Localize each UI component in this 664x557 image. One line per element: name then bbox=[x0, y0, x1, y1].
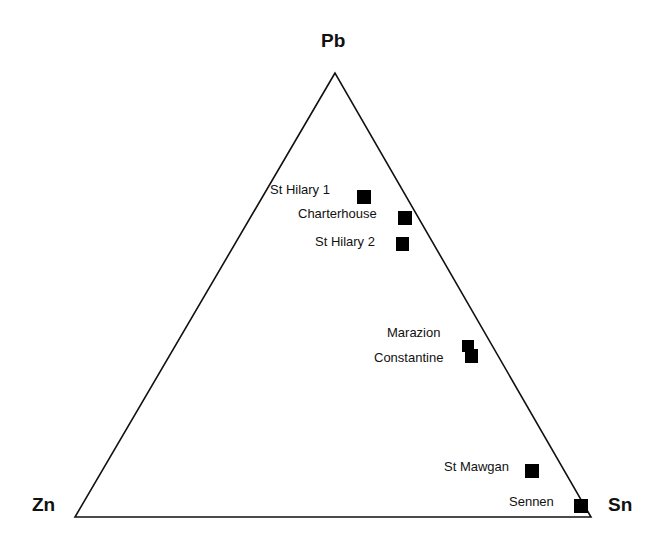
point-label-st-mawgan: St Mawgan bbox=[444, 459, 509, 474]
marker-constantine bbox=[465, 349, 478, 363]
point-label-st-hilary-2: St Hilary 2 bbox=[315, 234, 375, 249]
marker-st-mawgan bbox=[525, 464, 539, 478]
point-label-sennen: Sennen bbox=[509, 494, 554, 509]
triangle-outline bbox=[75, 73, 591, 517]
point-label-charterhouse: Charterhouse bbox=[298, 206, 377, 221]
point-label-st-hilary-1: St Hilary 1 bbox=[270, 182, 330, 197]
ternary-triangle bbox=[0, 0, 664, 557]
ternary-chart: Pb Zn Sn St Hilary 1 Charterhouse St Hil… bbox=[0, 0, 664, 557]
vertex-label-zn: Zn bbox=[32, 494, 55, 516]
marker-sennen bbox=[574, 499, 588, 513]
vertex-label-pb: Pb bbox=[321, 30, 345, 52]
marker-charterhouse bbox=[398, 211, 412, 225]
point-label-marazion: Marazion bbox=[387, 325, 440, 340]
marker-st-hilary-1 bbox=[357, 190, 371, 204]
point-label-constantine: Constantine bbox=[374, 350, 443, 365]
marker-st-hilary-2 bbox=[396, 237, 409, 251]
vertex-label-sn: Sn bbox=[608, 494, 632, 516]
